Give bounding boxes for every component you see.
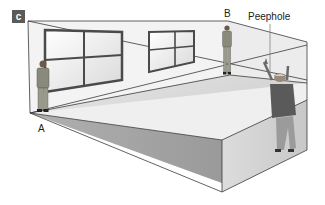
label-point-a: A (38, 124, 45, 134)
label-point-b: B (224, 9, 231, 19)
label-peephole: Peephole (248, 12, 290, 22)
large-window (45, 30, 122, 92)
ames-room-illustration (0, 0, 325, 205)
